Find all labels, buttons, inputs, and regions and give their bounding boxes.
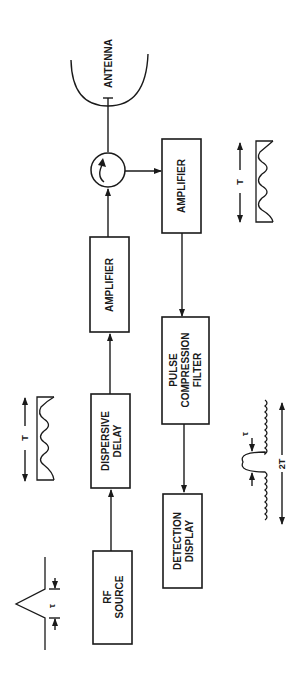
source-label-line1: RF bbox=[102, 590, 113, 603]
received-waveform: T bbox=[235, 141, 273, 222]
filter-label-line1: PULSE bbox=[168, 353, 179, 387]
compressed-width-label: τ bbox=[240, 432, 250, 436]
amplifier-tx-block: AMPLIFIER bbox=[90, 237, 129, 332]
received-duration-label: T bbox=[235, 179, 245, 185]
delay-label-line2: DELAY bbox=[112, 424, 123, 457]
delay-label-line1: DISPERSIVE bbox=[100, 411, 111, 471]
rf-source-block: RF SOURCE bbox=[93, 551, 132, 644]
input-width-label: τ bbox=[47, 604, 57, 608]
display-label-line1: DETECTION bbox=[172, 512, 183, 570]
pulse-compression-filter-block: PULSE COMPRESSION FILTER bbox=[162, 317, 209, 424]
antenna: ANTENNA bbox=[71, 39, 148, 152]
input-pulse: τ bbox=[16, 557, 60, 650]
source-label-line2: SOURCE bbox=[114, 575, 125, 618]
amplifier-rx-label: AMPLIFIER bbox=[176, 158, 187, 213]
filter-label-line3: FILTER bbox=[192, 352, 203, 387]
compressed-waveform: τ 2T bbox=[240, 400, 287, 524]
circulator-icon bbox=[91, 153, 125, 187]
filter-label-line2: COMPRESSION bbox=[180, 332, 191, 407]
detection-display-block: DETECTION DISPLAY bbox=[163, 494, 202, 588]
circulator bbox=[91, 153, 125, 187]
amplifier-tx-label: AMPLIFIER bbox=[104, 257, 115, 312]
block-diagram: ANTENNA AMPLIFIER AMPLIFIER PULSE COMPRE… bbox=[0, 0, 300, 684]
antenna-label: ANTENNA bbox=[103, 39, 114, 88]
display-label-line2: DISPLAY bbox=[184, 519, 195, 562]
dispersed-waveform: T bbox=[20, 397, 54, 481]
amplifier-rx-block: AMPLIFIER bbox=[162, 139, 201, 233]
compressed-span-label: 2T bbox=[277, 458, 287, 469]
dispersive-delay-block: DISPERSIVE DELAY bbox=[91, 394, 130, 488]
dispersed-duration-label: T bbox=[20, 435, 30, 441]
